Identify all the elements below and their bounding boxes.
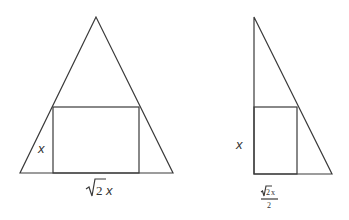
numerator-radicand: 2: [266, 188, 270, 197]
width-label-right-fraction: 2 x 2: [261, 186, 278, 210]
height-label-left: x: [37, 141, 45, 156]
diagram-canvas: x 2 x x 2 x 2: [0, 0, 349, 220]
right-figure: x 2 x 2: [235, 17, 332, 210]
inscribed-rectangle-right: [254, 107, 297, 174]
height-label-right: x: [235, 137, 243, 152]
right-triangle: [254, 17, 332, 174]
denominator: 2: [267, 201, 271, 210]
radicand: 2: [96, 183, 103, 198]
width-variable: x: [105, 183, 113, 198]
numerator-variable: x: [271, 188, 275, 197]
width-label-left: 2 x: [86, 179, 113, 198]
inscribed-rectangle-left: [53, 107, 139, 173]
left-figure: x 2 x: [20, 17, 173, 198]
